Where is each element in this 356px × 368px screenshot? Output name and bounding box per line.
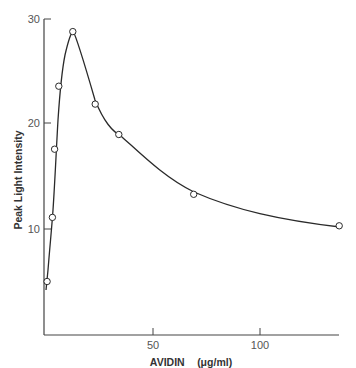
data-point-marker [116,131,122,137]
data-point-marker [56,83,62,89]
data-point-marker [49,214,55,220]
data-point-marker [92,101,98,107]
x-axis-title: AVIDIN (μg/ml) [150,352,232,368]
x-tick-label-50: 50 [147,339,159,351]
data-point-marker [191,191,197,197]
data-point-marker [51,146,57,152]
y-tick-label-30: 30 [28,13,40,25]
data-markers [44,28,343,284]
data-point-marker [70,28,76,34]
y-tick-label-10: 10 [28,223,40,235]
fitted-curve [46,31,340,290]
y-axis-title: Peak Light Intensity [12,130,24,229]
x-axis-title-unit: (μg/ml) [197,356,232,368]
data-point-marker [336,223,342,229]
axes [44,19,339,335]
x-axis-title-name: AVIDIN [150,356,185,368]
data-point-marker [44,278,50,284]
y-tick-label-20: 20 [28,117,40,129]
chart: 30 20 10 50 100 Peak Light Intensity AVI… [0,0,356,368]
x-tick-label-100: 100 [251,339,269,351]
